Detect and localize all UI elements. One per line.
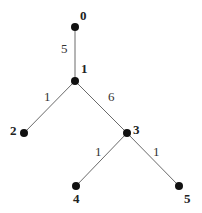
node-0 [71,23,79,31]
edge-weight-3-4: 1 [95,144,102,159]
edge-3-5 [127,133,179,186]
node-label-1: 1 [81,61,88,76]
edge-weight-1-2: 1 [44,89,51,104]
node-3 [123,129,131,137]
node-label-5: 5 [184,191,191,206]
tree-diagram: 5 1 6 1 1 0 1 2 3 4 5 [0,0,202,213]
node-2 [20,129,28,137]
edge-1-3 [75,81,127,133]
node-label-3: 3 [133,122,140,137]
edge-weight-0-1: 5 [61,41,68,56]
edge-weight-3-5: 1 [153,144,160,159]
node-5 [175,182,183,190]
tree-graph: 5 1 6 1 1 0 1 2 3 4 5 [0,0,202,213]
edge-weight-1-3: 6 [108,89,115,104]
edge-3-4 [76,133,127,186]
node-label-2: 2 [10,123,17,138]
node-label-0: 0 [80,8,87,23]
node-label-4: 4 [73,191,80,206]
node-4 [72,182,80,190]
node-1 [71,77,79,85]
